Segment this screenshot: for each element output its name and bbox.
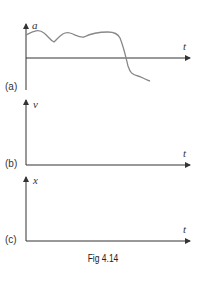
a-x-label: t xyxy=(183,40,186,52)
figure-canvas xyxy=(0,0,206,285)
graph-b xyxy=(26,100,190,165)
b-x-label: t xyxy=(183,147,186,159)
a-panel-label: (a) xyxy=(5,81,17,92)
graph-c xyxy=(26,177,190,241)
c-x-label: t xyxy=(183,223,186,235)
b-panel-label: (b) xyxy=(5,158,17,169)
c-y-label: x xyxy=(33,174,38,186)
c-panel-label: (c) xyxy=(5,234,17,245)
b-y-label: v xyxy=(33,98,38,110)
graph-a xyxy=(26,24,190,90)
a-y-label: a xyxy=(32,19,38,31)
figure-caption: Fig 4.14 xyxy=(15,253,190,264)
acceleration-curve xyxy=(26,31,150,81)
